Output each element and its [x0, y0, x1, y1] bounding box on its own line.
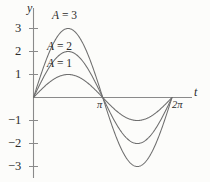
series-label-a2-var: A	[47, 40, 54, 52]
plot-canvas	[0, 0, 210, 182]
x-tick-label-2pi: 2π	[172, 100, 183, 111]
series-label-a3-num: 3	[71, 9, 77, 21]
y-tick-label-neg3: −3	[8, 160, 21, 173]
y-tick-label-2: 2	[15, 45, 21, 58]
series-label-a1: A = 1	[47, 58, 72, 70]
series-label-a1-eq: =	[54, 57, 66, 69]
x-axis-label: t	[194, 86, 197, 98]
series-label-a1-num: 1	[66, 57, 72, 69]
series-label-a1-var: A	[47, 57, 54, 69]
series-label-a3: A = 3	[52, 10, 77, 22]
series-label-a3-var: A	[52, 9, 59, 21]
series-label-a2: A = 2	[47, 41, 72, 53]
sine-amplitude-figure: y t 3 2 1 −1 −2 −3 π 2π A = 3 A = 2 A = …	[0, 0, 210, 182]
axes-group	[34, 8, 193, 178]
y-tick-label-neg1: −1	[8, 114, 21, 127]
y-tick-label-neg2: −2	[8, 137, 21, 150]
y-tick-label-3: 3	[15, 22, 21, 35]
series-label-a2-num: 2	[66, 40, 72, 52]
series-label-a3-eq: =	[59, 9, 71, 21]
x-tick-label-pi: π	[97, 100, 102, 111]
y-axis-label: y	[27, 2, 32, 14]
y-tick-label-1: 1	[15, 68, 21, 81]
series-label-a2-eq: =	[54, 40, 66, 52]
